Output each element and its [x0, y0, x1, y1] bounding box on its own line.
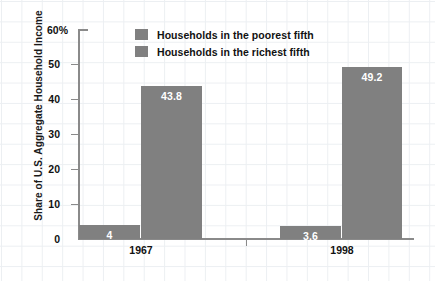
y-tick-label-30: 30	[48, 128, 60, 140]
y-tick-label-40: 40	[48, 93, 60, 105]
y-tick-label-50: 50	[48, 58, 60, 70]
bar-1967-poorest: 4	[79, 225, 140, 239]
bar-chart: Share of U.S. Aggregate Household Income…	[0, 0, 435, 281]
bar-1998-richest: 49.2	[342, 67, 402, 239]
y-tick-label-60: 60%	[47, 24, 68, 36]
bar-1998-poorest: 3.6	[280, 226, 341, 239]
bar-value-1998-poorest: 3.6	[280, 230, 341, 242]
x-tick-label-1998: 1998	[330, 244, 353, 256]
y-tick-30: 30	[71, 134, 79, 135]
bar-value-1998-richest: 49.2	[342, 71, 402, 83]
y-tick-20: 20	[71, 169, 79, 170]
bar-1967-richest: 43.8	[141, 86, 202, 239]
y-tick-60: 60%	[79, 29, 88, 31]
x-tick-label-1967: 1967	[129, 244, 152, 256]
legend-label-richest: Households in the richest fifth	[157, 46, 310, 58]
x-axis-center-tick	[246, 239, 247, 246]
y-tick-label-10: 10	[48, 198, 60, 210]
y-tick-label-0: 0	[54, 233, 60, 245]
legend: Households in the poorest fifth Househol…	[135, 27, 314, 61]
legend-label-poorest: Households in the poorest fifth	[157, 29, 314, 41]
y-tick-50: 50	[71, 64, 79, 65]
legend-swatch-richest-icon	[135, 46, 148, 57]
legend-swatch-poorest-icon	[135, 29, 148, 40]
bar-value-1967-poorest: 4	[79, 229, 140, 241]
legend-item-poorest: Households in the poorest fifth	[135, 27, 314, 42]
legend-item-richest: Households in the richest fifth	[135, 44, 314, 59]
y-tick-40: 40	[71, 99, 79, 100]
y-tick-label-20: 20	[48, 163, 60, 175]
y-axis-title: Share of U.S. Aggregate Household Income	[33, 1, 44, 231]
y-tick-10: 10	[71, 204, 79, 205]
bar-value-1967-richest: 43.8	[141, 90, 202, 102]
